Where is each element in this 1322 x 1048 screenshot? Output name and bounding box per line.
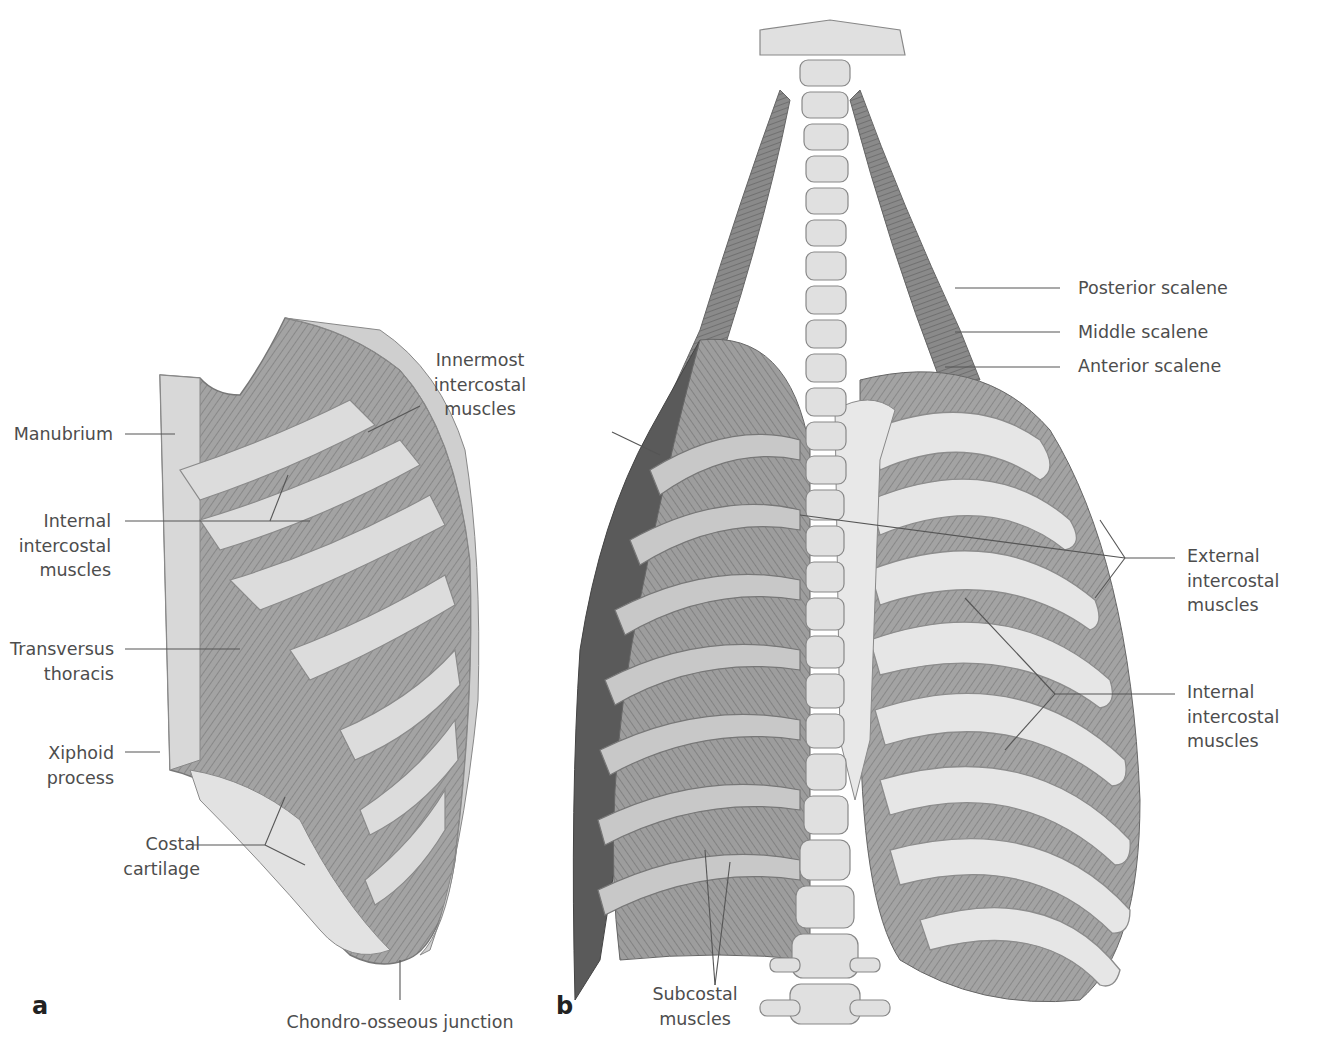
- thorax-illustration: [0, 0, 1322, 1048]
- label-xiphoid-process: Xiphoid process: [0, 741, 114, 790]
- label-chondro-osseous-junction: Chondro-osseous junction: [270, 1010, 530, 1035]
- label-internal-intercostal-a: Internal intercostal muscles: [0, 509, 111, 583]
- label-costal-cartilage: Costal cartilage: [100, 832, 200, 881]
- label-innermost-intercostal: Innermost intercostal muscles: [420, 348, 540, 422]
- label-subcostal-muscles: Subcostal muscles: [640, 982, 750, 1031]
- label-internal-intercostal-b: Internal intercostal muscles: [1187, 680, 1317, 754]
- label-anterior-scalene: Anterior scalene: [1078, 354, 1318, 379]
- panel-letter-a: a: [32, 992, 48, 1020]
- label-middle-scalene: Middle scalene: [1078, 320, 1318, 345]
- label-posterior-scalene: Posterior scalene: [1078, 276, 1318, 301]
- panel-letter-b: b: [556, 992, 573, 1020]
- label-manubrium: Manubrium: [0, 422, 113, 447]
- label-external-intercostal: External intercostal muscles: [1187, 544, 1317, 618]
- label-transversus-thoracis: Transversus thoracis: [0, 637, 114, 686]
